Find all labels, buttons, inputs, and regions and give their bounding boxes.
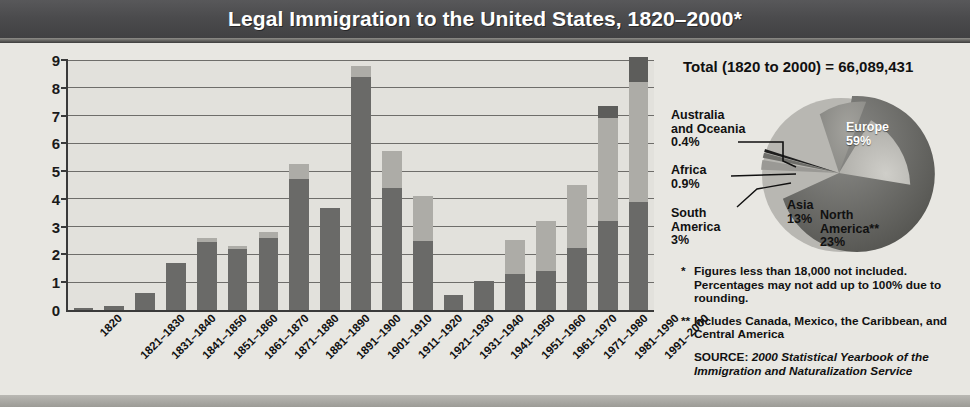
bar xyxy=(629,57,649,310)
y-tick xyxy=(61,226,68,228)
pie-panel: Total (1820 to 2000) = 66,089,431 xyxy=(665,43,970,395)
footnote-2-marker: ** xyxy=(681,315,690,329)
source-note: SOURCE: 2000 Statistical Yearbook of the… xyxy=(681,351,970,378)
bar xyxy=(536,221,556,310)
bar xyxy=(320,208,340,311)
y-tick-label: 1 xyxy=(40,274,60,291)
bar xyxy=(444,295,464,310)
bar xyxy=(104,306,124,310)
pie-label-asia: Asia 13% xyxy=(787,199,813,226)
plot-area xyxy=(66,60,654,312)
bottom-divider xyxy=(0,395,970,407)
bar-segment xyxy=(505,274,525,310)
pie-label-south-america: South America 3% xyxy=(671,207,720,248)
pie-label-europe: Europe 59% xyxy=(846,121,889,148)
bar-segment xyxy=(74,308,94,310)
y-tick-label: 8 xyxy=(40,79,60,96)
bar-series xyxy=(68,60,654,310)
bar xyxy=(474,281,494,310)
bar-segment xyxy=(166,263,186,311)
bar-segment xyxy=(444,295,464,310)
bar-segment xyxy=(382,188,402,310)
bar-segment xyxy=(259,238,279,310)
y-tick xyxy=(61,59,68,61)
bar-segment xyxy=(629,57,649,82)
bar xyxy=(197,238,217,310)
bar-segment xyxy=(351,77,371,310)
title-banner: Legal Immigration to the United States, … xyxy=(0,0,970,38)
bar xyxy=(228,246,248,310)
bar-segment xyxy=(413,241,433,310)
bar-segment xyxy=(320,208,340,311)
bar xyxy=(289,164,309,310)
bar xyxy=(135,293,155,310)
bar-segment xyxy=(289,164,309,179)
x-tick-label: 1820 xyxy=(98,312,125,339)
pie-label-north-america: North America** 23% xyxy=(820,209,879,250)
bar-segment xyxy=(598,221,618,310)
footnote-2: ** Includes Canada, Mexico, the Caribbea… xyxy=(681,315,970,342)
bar-segment xyxy=(505,240,525,274)
page-title: Legal Immigration to the United States, … xyxy=(0,0,970,38)
content-panel: Millions of people 0123456789 18201821–1… xyxy=(0,43,970,395)
bar-segment xyxy=(351,66,371,77)
bar-segment xyxy=(536,271,556,310)
y-tick-label: 5 xyxy=(40,163,60,180)
bar-segment xyxy=(567,248,587,311)
bar-segment xyxy=(197,242,217,310)
bar-segment xyxy=(382,151,402,188)
bar xyxy=(598,106,618,310)
bar xyxy=(166,263,186,311)
y-tick xyxy=(61,142,68,144)
bar xyxy=(505,240,525,310)
bar-segment xyxy=(598,106,618,118)
pie-slice-labels: Australia and Oceania 0.4% Africa 0.9% S… xyxy=(665,79,970,264)
bar xyxy=(382,151,402,310)
y-tick-label: 7 xyxy=(40,107,60,124)
bar xyxy=(74,308,94,310)
y-tick xyxy=(61,87,68,89)
bar xyxy=(351,66,371,310)
pie-total-label: Total (1820 to 2000) = 66,089,431 xyxy=(683,58,970,75)
bar-segment xyxy=(629,82,649,201)
bar-segment xyxy=(413,196,433,241)
y-tick xyxy=(61,253,68,255)
footnote-1-marker: * xyxy=(681,265,686,279)
infographic-page: Legal Immigration to the United States, … xyxy=(0,0,970,407)
bar-segment xyxy=(629,202,649,310)
bar-segment xyxy=(289,179,309,310)
y-tick-label: 3 xyxy=(40,218,60,235)
bar-segment xyxy=(104,306,124,310)
y-tick xyxy=(61,281,68,283)
y-tick-label: 2 xyxy=(40,246,60,263)
bar xyxy=(259,232,279,310)
bar-segment xyxy=(536,221,556,271)
y-tick-label: 6 xyxy=(40,135,60,152)
y-tick xyxy=(61,170,68,172)
bar-segment xyxy=(474,281,494,310)
pie-label-australia: Australia and Oceania 0.4% xyxy=(671,109,745,150)
pie-chart: Australia and Oceania 0.4% Africa 0.9% S… xyxy=(665,79,970,264)
bar-segment xyxy=(598,118,618,221)
y-tick-label: 0 xyxy=(40,302,60,319)
footnote-1: * Figures less than 18,000 not included.… xyxy=(681,265,970,306)
bar-segment xyxy=(228,249,248,310)
bar xyxy=(413,196,433,310)
pie-label-africa: Africa 0.9% xyxy=(671,164,706,191)
y-tick-label: 4 xyxy=(40,190,60,207)
bar-chart: Millions of people 0123456789 18201821–1… xyxy=(0,43,665,395)
x-axis-labels: 18201821–18301831–18401841–18501851–1860… xyxy=(66,312,652,392)
bar-segment xyxy=(135,293,155,310)
y-axis-labels: 0123456789 xyxy=(38,60,60,310)
y-tick-label: 9 xyxy=(40,52,60,69)
footnotes: * Figures less than 18,000 not included.… xyxy=(681,265,970,387)
y-tick xyxy=(61,198,68,200)
bar xyxy=(567,185,587,310)
y-tick xyxy=(61,115,68,117)
bar-segment xyxy=(567,185,587,247)
